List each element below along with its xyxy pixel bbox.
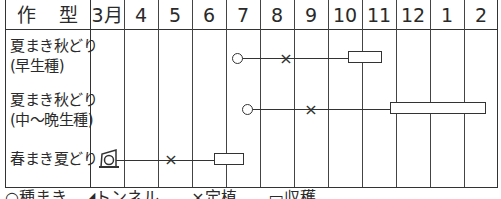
row-sublabel: (早生種)	[10, 57, 64, 76]
month-header: 1	[430, 4, 464, 26]
growth-line	[108, 160, 218, 161]
sowing-circle-icon	[232, 53, 243, 64]
month-header: 5	[158, 4, 192, 26]
grid-line	[328, 0, 329, 187]
transplant-cross-icon: ×	[279, 51, 293, 67]
month-header: 12	[396, 4, 430, 26]
month-header: 2	[464, 4, 498, 26]
month-header: 7	[226, 4, 260, 26]
row-sublabel: (中～晩生種)	[10, 111, 93, 130]
grid-line	[192, 0, 193, 187]
schedule-table: 作 型 3月 4 5 6 7 8 9 10 11 12 1 2 夏まき秋どり (…	[5, 0, 498, 188]
growth-line	[246, 109, 391, 110]
transplant-cross-icon: ×	[304, 102, 318, 118]
legend-truncated: ○種まき ◢トンネル ×定植 ▭収穫	[5, 189, 501, 199]
row-label: 夏まき秋どり	[10, 91, 97, 110]
harvest-bar	[348, 51, 382, 63]
harvest-bar	[214, 153, 244, 165]
grid-line	[260, 0, 261, 187]
transplant-cross-icon: ×	[164, 152, 178, 168]
month-header: 10	[328, 4, 362, 26]
grid-line	[430, 0, 431, 187]
month-header: 6	[192, 4, 226, 26]
header-label: 作 型	[6, 4, 90, 26]
month-header: 4	[124, 4, 158, 26]
row-label: 春まき夏どり	[10, 150, 97, 169]
grid-line	[124, 0, 125, 187]
grid-line	[396, 0, 397, 187]
month-header: 3月	[90, 4, 124, 26]
month-header: 11	[362, 4, 396, 26]
month-header: 9	[294, 4, 328, 26]
grid-line	[158, 0, 159, 187]
month-header: 8	[260, 4, 294, 26]
grid-line	[362, 0, 363, 187]
sowing-circle-icon	[242, 104, 253, 115]
grid-line	[294, 0, 295, 187]
row-label: 夏まき秋どり	[10, 37, 97, 56]
harvest-bar	[390, 102, 486, 114]
grid-line	[464, 0, 465, 187]
tunnel-sowing-icon	[98, 148, 120, 170]
